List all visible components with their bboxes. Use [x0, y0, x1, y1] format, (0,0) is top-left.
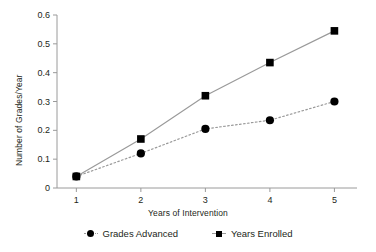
x-axis-tick-label: 2 — [138, 195, 143, 205]
data-point-years-enrolled — [202, 92, 210, 100]
chart-legend: Grades AdvancedYears Enrolled — [0, 228, 376, 239]
data-point-years-enrolled — [331, 27, 339, 35]
legend-marker-circle-icon — [87, 230, 94, 237]
data-point-years-enrolled — [266, 59, 274, 67]
series-group — [72, 27, 338, 181]
legend-label: Grades Advanced — [103, 228, 179, 239]
legend-item-years-enrolled[interactable]: Years Enrolled — [212, 228, 292, 239]
y-axis-tick-label: 0.4 — [37, 68, 50, 78]
data-point-grades-advanced — [201, 125, 209, 133]
y-axis-tick-label: 0.3 — [37, 97, 50, 107]
data-point-grades-advanced — [72, 172, 80, 180]
legend-key-circle-icon — [84, 229, 98, 239]
x-axis-title: Years of Intervention — [0, 208, 376, 218]
line-chart-figure: 00.10.20.30.40.50.6 12345 Number of Grad… — [0, 0, 376, 252]
y-axis-tick-label: 0.5 — [37, 39, 50, 49]
legend-item-grades-advanced[interactable]: Grades Advanced — [84, 228, 179, 239]
legend-marker-square-icon — [216, 231, 223, 238]
y-axis-title: Number of Grades/Year — [14, 74, 24, 166]
data-point-years-enrolled — [137, 135, 145, 143]
x-axis-tick-label: 4 — [267, 195, 272, 205]
y-axis-tick-label: 0.6 — [37, 10, 50, 20]
y-axis-tick-label: 0 — [45, 183, 50, 193]
x-axis-tick-label: 3 — [203, 195, 208, 205]
x-axis-tick-label: 1 — [74, 195, 79, 205]
series-line-grades-advanced — [76, 102, 334, 177]
data-point-grades-advanced — [137, 149, 145, 157]
data-point-grades-advanced — [330, 97, 338, 105]
y-axis-tick-label: 0.1 — [37, 154, 50, 164]
legend-key-square-icon — [212, 229, 226, 239]
legend-label: Years Enrolled — [231, 228, 292, 239]
series-line-years-enrolled — [76, 31, 334, 177]
data-point-grades-advanced — [266, 116, 274, 124]
x-axis-tick-label: 5 — [332, 195, 337, 205]
y-axis-tick-label: 0.2 — [37, 125, 50, 135]
